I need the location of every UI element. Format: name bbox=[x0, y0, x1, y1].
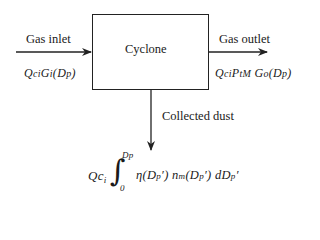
gas-inlet-formula: QciGi(Dp) bbox=[24, 66, 76, 81]
integral-upper-limit: Dp bbox=[122, 150, 134, 160]
collected-dust-label: Collected dust bbox=[162, 109, 234, 124]
collected-dust-formula: Qci ∫ Dp 0 η(Dp′) nm(Dp′) dDp′ bbox=[88, 150, 288, 196]
integral-lower-limit: 0 bbox=[120, 183, 125, 193]
cyclone-label: Cyclone bbox=[125, 42, 167, 57]
gas-outlet-formula: QciPtM Go(Dp) bbox=[215, 66, 292, 81]
gas-inlet-label: Gas inlet bbox=[26, 32, 71, 47]
gas-outlet-label: Gas outlet bbox=[219, 32, 270, 47]
